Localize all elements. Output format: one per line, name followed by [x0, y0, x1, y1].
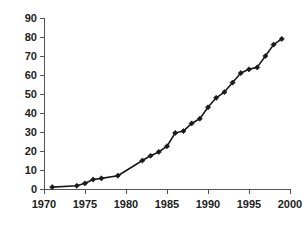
- x-tick-label: 1975: [73, 198, 97, 210]
- y-axis: 0102030405060708090: [25, 12, 44, 195]
- x-tick-label: 1990: [196, 198, 220, 210]
- x-tick-label: 1985: [155, 198, 179, 210]
- y-tick-label: 0: [31, 183, 37, 195]
- y-tick-label: 50: [25, 88, 37, 100]
- y-tick-label: 60: [25, 69, 37, 81]
- data-point-marker: [91, 177, 96, 182]
- data-point-marker: [246, 67, 251, 72]
- series-line: [52, 39, 282, 187]
- y-tick-label: 90: [25, 12, 37, 24]
- data-point-marker: [82, 181, 87, 186]
- x-tick-label: 1980: [114, 198, 138, 210]
- y-tick-label: 30: [25, 126, 37, 138]
- x-axis: 1970197519801985199019952000: [32, 189, 302, 210]
- data-point-marker: [99, 176, 104, 181]
- x-tick-label: 1970: [32, 198, 56, 210]
- line-chart: 0102030405060708090 19701975198019851990…: [0, 0, 308, 232]
- x-tick-label: 1995: [237, 198, 261, 210]
- y-tick-label: 10: [25, 164, 37, 176]
- y-tick-label: 20: [25, 145, 37, 157]
- data-point-marker: [74, 183, 79, 188]
- data-series: [50, 36, 285, 189]
- chart-container: 0102030405060708090 19701975198019851990…: [0, 0, 308, 232]
- y-tick-label: 40: [25, 107, 37, 119]
- y-tick-label: 70: [25, 50, 37, 62]
- y-tick-label: 80: [25, 31, 37, 43]
- x-tick-label: 2000: [278, 198, 302, 210]
